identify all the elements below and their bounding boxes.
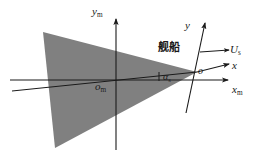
diagram-canvas: [0, 0, 254, 157]
x-axis-label: x: [232, 60, 237, 71]
velocity-label: Us: [230, 44, 241, 55]
angle-label: αs: [163, 72, 171, 82]
ym-axis-label: ym: [92, 6, 103, 17]
ship-annotation-label: 舰船: [158, 42, 180, 53]
origin-label: o: [198, 66, 203, 76]
om-origin-label: om: [95, 81, 106, 92]
velocity-vector-line: [200, 50, 229, 52]
xm-axis-label: xm: [232, 84, 243, 95]
coordinate-diagram: ym xm om y x o Us αs 舰船: [0, 0, 254, 157]
y-axis-label: y: [185, 20, 190, 31]
